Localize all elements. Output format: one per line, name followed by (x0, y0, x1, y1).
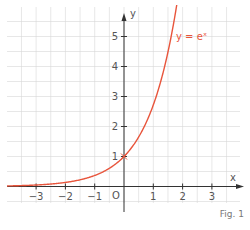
exponential-chart: −3−2−112312345 y = eˣ y x O (0, 0, 250, 230)
y-tick-label: 4 (112, 61, 118, 72)
y-axis-label: y (130, 8, 136, 19)
y-tick-label: 2 (112, 121, 118, 132)
x-tick-label: 3 (209, 191, 215, 202)
exponential-curve (7, 5, 177, 186)
y-tick-label: 3 (112, 91, 118, 102)
origin-label: O (112, 190, 120, 201)
x-tick-label: −2 (58, 191, 73, 202)
curve-label: y = eˣ (176, 31, 207, 42)
x-axis-arrow-icon (236, 184, 244, 189)
x-tick-label: −3 (29, 191, 44, 202)
y-axis-arrow-icon (122, 13, 127, 21)
figure-caption: Fig. 1 (220, 209, 244, 219)
x-tick-label: 1 (150, 191, 156, 202)
x-tick-label: 2 (179, 191, 185, 202)
x-tick-label: −1 (87, 191, 102, 202)
axis-ticks: −3−2−112312345 (29, 31, 215, 202)
axes (7, 13, 244, 212)
x-axis-label: x (230, 172, 236, 183)
y-tick-label: 1 (112, 151, 118, 162)
y-tick-label: 5 (112, 31, 118, 42)
